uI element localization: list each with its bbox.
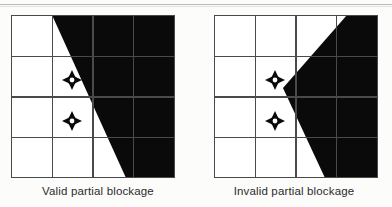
diagram-valid-blockage xyxy=(0,0,196,182)
caption-invalid: Invalid partial blockage xyxy=(196,184,392,198)
diagram-invalid-blockage xyxy=(196,0,392,182)
caption-valid: Valid partial blockage xyxy=(0,184,196,198)
figure-root: Valid partial blockage xyxy=(0,0,392,207)
